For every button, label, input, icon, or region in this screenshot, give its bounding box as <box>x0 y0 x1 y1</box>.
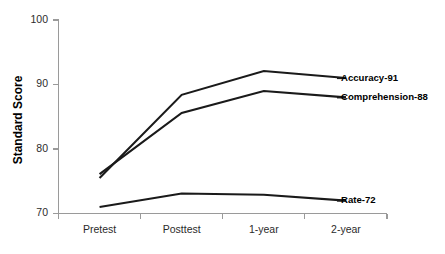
series-label-accuracy: Accuracy-91 <box>341 72 399 83</box>
line-chart: 708090100 PretestPosttest1-year2-year St… <box>0 0 445 254</box>
series-label-rate: Rate-72 <box>341 194 376 205</box>
y-tick-labels: 708090100 <box>30 13 48 219</box>
y-tick-marks <box>53 20 59 214</box>
y-tick-label-90: 90 <box>36 77 48 89</box>
chart-canvas: 708090100 PretestPosttest1-year2-year St… <box>0 0 445 254</box>
series-end-labels-group: Accuracy-91Comprehension-88Rate-72 <box>341 72 429 206</box>
series-line-rate <box>100 194 346 208</box>
x-tick-label-pretest: Pretest <box>83 223 116 235</box>
x-tick-labels: PretestPosttest1-year2-year <box>83 223 361 235</box>
series-line-comprehension <box>100 91 346 174</box>
series-line-accuracy <box>100 71 346 178</box>
x-tick-label-posttest: Posttest <box>163 223 201 235</box>
x-tick-label-1-year: 1-year <box>249 223 279 235</box>
y-axis-title: Standard Score <box>11 75 25 164</box>
y-tick-label-70: 70 <box>36 206 48 218</box>
y-tick-label-80: 80 <box>36 142 48 154</box>
x-axis-group: PretestPosttest1-year2-year <box>59 214 388 236</box>
y-axis-group: 708090100 <box>30 13 58 219</box>
x-tick-label-2-year: 2-year <box>331 223 361 235</box>
series-label-comprehension: Comprehension-88 <box>341 91 429 102</box>
x-tick-marks <box>59 214 388 220</box>
series-lines-group <box>100 71 346 207</box>
y-tick-label-100: 100 <box>30 13 48 25</box>
